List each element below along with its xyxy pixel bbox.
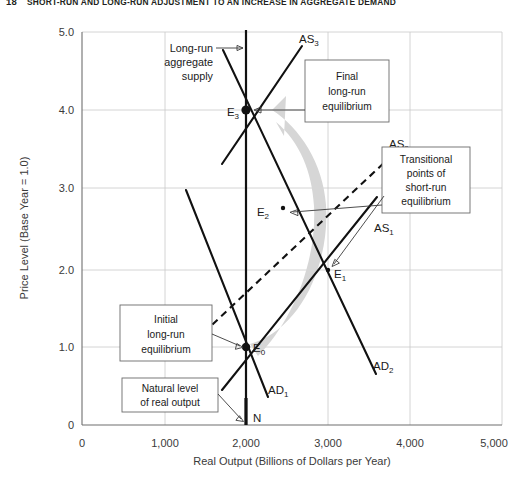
callout-initial-line3: equilibrium (141, 344, 190, 355)
as3-curve (222, 46, 302, 164)
callout-initial-line1: Initial (154, 314, 178, 325)
x-axis-label: Real Output (Billions of Dollars per Yea… (193, 455, 390, 467)
point-e1 (326, 268, 330, 272)
x-tick-5000: 5,000 (480, 437, 508, 449)
ad1-curve (186, 190, 268, 397)
x-tick-1000: 1,000 (151, 437, 179, 449)
label-ad1: AD1 (268, 384, 289, 399)
label-n: N (253, 412, 261, 424)
point-e3 (241, 105, 250, 114)
y-axis-label: Price Level (Base Year = 1.0) (18, 157, 30, 300)
callout-final-line2: long-run (328, 86, 365, 97)
callout-lras-line2: aggregate (164, 56, 213, 68)
x-axis-ticks: 0 1,000 2,000 3,000 4,000 5,000 (79, 437, 508, 449)
callout-lras: Long-run aggregate supply (164, 42, 243, 82)
x-tick-0: 0 (79, 437, 85, 449)
label-e3: E3 (227, 106, 240, 121)
callout-transitional-line2: points of (407, 168, 446, 179)
callout-initial-line2: long-run (147, 329, 184, 340)
y-axis-ticks: 5.0 4.0 3.0 2.0 1.0 0 (59, 26, 74, 431)
x-tick-2000: 2,000 (232, 437, 260, 449)
axis-lines (82, 32, 502, 425)
figure-container: 18SHORT-RUN AND LONG-RUN ADJUSTMENT TO A… (0, 0, 520, 480)
economics-chart: 5.0 4.0 3.0 2.0 1.0 0 0 1,000 2,000 3,00… (0, 0, 520, 480)
callout-final-line1: Final (336, 71, 358, 82)
grid-lines (82, 32, 502, 425)
label-e2: E2 (257, 206, 270, 221)
callout-transitional-line3: short-run (406, 182, 447, 193)
callout-final-line3: equilibrium (322, 101, 371, 112)
callout-transitional-line4: equilibrium (401, 196, 450, 207)
y-tick-5: 5.0 (59, 26, 74, 38)
y-tick-1: 1.0 (59, 341, 74, 353)
callout-final-equilibrium: Final long-run equilibrium (254, 60, 389, 122)
callout-natural-line1: Natural level (142, 383, 199, 394)
y-tick-2: 2.0 (59, 264, 74, 276)
callout-natural-line2: of real output (140, 397, 200, 408)
point-e2 (281, 206, 285, 210)
y-tick-4: 4.0 (59, 104, 74, 116)
y-tick-0: 0 (68, 419, 74, 431)
y-tick-3: 3.0 (59, 182, 74, 194)
x-tick-4000: 4,000 (396, 437, 424, 449)
label-as1: AS1 (374, 222, 394, 237)
callout-transitional-line1: Transitional (400, 154, 452, 165)
callout-lras-line3: supply (182, 70, 214, 82)
x-tick-3000: 3,000 (314, 437, 342, 449)
adjustment-path-arrow (250, 96, 326, 356)
callout-lras-line1: Long-run (170, 42, 213, 54)
